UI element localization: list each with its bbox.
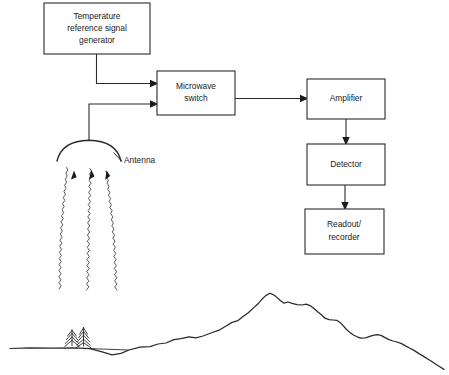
box-label-line: recorder — [328, 232, 359, 242]
diagram-root: Temperature reference signal generator M… — [0, 0, 449, 375]
box-label-line: reference signal — [67, 23, 127, 33]
ray-squiggle-path — [59, 167, 68, 289]
box-label-line: Microwave — [176, 81, 216, 91]
box-label-line: generator — [79, 35, 115, 45]
box-temperature-reference-signal-generator[interactable]: Temperature reference signal generator — [44, 3, 150, 54]
ray-squiggle-path — [87, 168, 92, 290]
box-label-line: Readout/ — [327, 219, 362, 229]
connector-tempref-to-switch — [97, 54, 151, 84]
antenna-arc-icon — [57, 140, 121, 161]
radiation-ray-icon — [59, 167, 77, 289]
ray-squiggle-path — [106, 171, 117, 290]
antenna-dish[interactable] — [57, 140, 121, 161]
connector-antenna-to-switch — [89, 104, 150, 140]
landscape-group — [10, 293, 444, 369]
box-detector[interactable]: Detector — [307, 144, 385, 185]
radiation-ray-group — [59, 167, 117, 290]
box-label-line: Detector — [330, 159, 362, 169]
box-readout-recorder[interactable]: Readout/ recorder — [305, 209, 384, 254]
antenna-label: Antenna — [124, 155, 156, 165]
box-label-line: switch — [184, 93, 208, 103]
box-amplifier[interactable]: Amplifier — [307, 79, 385, 119]
box-label-line: Temperature — [73, 11, 120, 21]
box-microwave-switch[interactable]: Microwave switch — [157, 71, 235, 115]
pine-tree-icon — [65, 330, 79, 347]
radiation-ray-icon — [105, 170, 117, 290]
pine-tree-right-path — [76, 327, 90, 347]
pine-tree-left-path — [65, 330, 79, 347]
pine-tree-icon — [76, 327, 90, 347]
ray-arrowhead — [71, 171, 77, 180]
radiation-ray-icon — [87, 168, 95, 290]
antenna-callout: Antenna — [114, 153, 156, 166]
mountain-skyline — [10, 293, 444, 369]
block-diagram-canvas: Temperature reference signal generator M… — [0, 0, 449, 375]
box-label-line: Amplifier — [330, 93, 363, 103]
box-group: Temperature reference signal generator M… — [44, 3, 385, 254]
